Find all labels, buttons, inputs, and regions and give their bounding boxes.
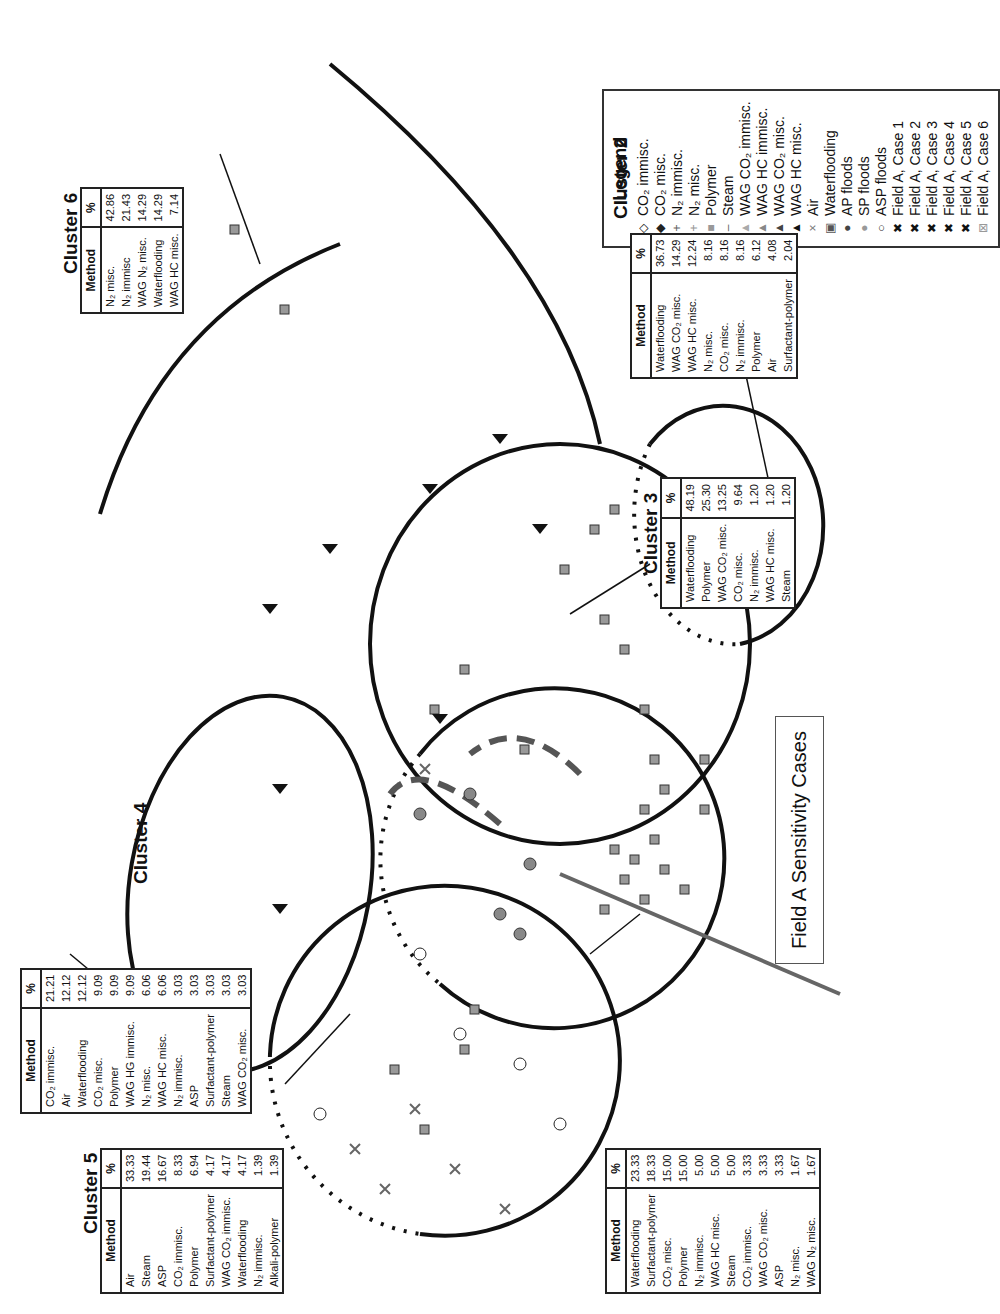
method-column-header: Method — [661, 518, 681, 608]
method-cell: ASP — [186, 1008, 202, 1113]
percent-cell: 36.73 — [651, 234, 668, 274]
method-cell: WAG HC misc. — [762, 518, 778, 608]
legend-item: ▲WAG HC misc. — [788, 101, 805, 236]
percent-cell: 4.17 — [234, 1149, 250, 1189]
table-row: Polymer6.94 — [186, 1149, 202, 1293]
table-row: CO₂ immisc.21.21 — [41, 969, 58, 1113]
legend-label: Waterflooding — [822, 130, 839, 216]
table-row: N₂ immisc.1.20 — [746, 478, 762, 608]
method-column-header: Method — [101, 1188, 121, 1293]
table-header-row: Method% — [81, 188, 101, 313]
method-cell: Surfactant-polymer — [202, 1008, 218, 1113]
method-cell: Alkali-polymer — [266, 1188, 283, 1293]
method-cell: CO₂ immisc. — [41, 1008, 58, 1113]
table-row: Steam3.03 — [218, 969, 234, 1113]
legend-items: ◇CO₂ immisc.◆CO₂ misc.+N₂ immisc.+N₂ mis… — [635, 101, 992, 236]
legend-item: +N₂ misc. — [686, 101, 703, 236]
legend-label: N₂ immisc. — [669, 149, 686, 216]
legend-item: ⊠Field A, Case 6 — [975, 101, 992, 236]
table-row: WAG N₂ misc.14.29 — [134, 188, 150, 313]
method-cell: Waterflooding — [150, 227, 166, 313]
percent-cell: 19.44 — [138, 1149, 154, 1189]
percent-cell: 7.14 — [166, 188, 183, 228]
field-a-callout: Field A Sensitivity Cases — [775, 716, 824, 964]
percent-cell: 8.16 — [716, 234, 732, 274]
cluster-1-table: Method%Waterflooding23.33Surfactant-poly… — [605, 1148, 821, 1294]
percent-cell: 33.33 — [121, 1149, 138, 1189]
legend-label: WAG CO₂ misc. — [771, 116, 788, 216]
legend-item: ✖Field A, Case 5 — [958, 101, 975, 236]
legend-label: Air — [805, 199, 822, 216]
percent-cell: 42.86 — [101, 188, 118, 228]
legend-label: Field A, Case 6 — [975, 121, 992, 216]
method-cell: Steam — [138, 1188, 154, 1293]
percent-cell: 13.25 — [714, 478, 730, 518]
table-row: Steam5.00 — [723, 1149, 739, 1293]
percent-cell: 1.20 — [746, 478, 762, 518]
method-cell: Waterflooding — [74, 1008, 90, 1113]
table-row: N₂ misc.1.67 — [787, 1149, 803, 1293]
method-cell: Polymer — [748, 273, 764, 378]
cluster-6-title: Cluster 6 — [60, 193, 82, 274]
percent-cell: 5.00 — [723, 1149, 739, 1189]
percent-cell: 1.20 — [762, 478, 778, 518]
method-cell: Steam — [778, 518, 795, 608]
table-row: CO₂ immisc.3.33 — [739, 1149, 755, 1293]
table-row: WAG N₂ misc.1.67 — [803, 1149, 820, 1293]
table-row: Waterflooding4.17 — [234, 1149, 250, 1293]
method-cell: Steam — [218, 1008, 234, 1113]
legend-label: WAG CO₂ immisc. — [737, 101, 754, 216]
method-cell: WAG CO₂ misc. — [714, 518, 730, 608]
table-row: WAG CO₂ misc.3.03 — [234, 969, 251, 1113]
legend-item: ◆CO₂ misc. — [652, 101, 669, 236]
percent-column-header: % — [81, 188, 101, 228]
table-row: N₂ immisc.3.03 — [170, 969, 186, 1113]
legend-label: N₂ misc. — [686, 164, 703, 216]
method-cell: Waterflooding — [681, 518, 698, 608]
legend-item: ○ASP floods — [873, 101, 890, 236]
percent-cell: 21.21 — [41, 969, 58, 1009]
table-header-row: Method% — [606, 1149, 626, 1293]
cluster-6-table: Method%N₂ misc.42.86N₂ immisc21.43WAG N₂… — [80, 187, 184, 314]
method-cell: Steam — [723, 1188, 739, 1293]
percent-cell: 6.94 — [186, 1149, 202, 1189]
table-row: N₂ misc.8.16 — [700, 234, 716, 378]
method-cell: ASP — [154, 1188, 170, 1293]
legend-item: ✖Field A, Case 4 — [941, 101, 958, 236]
cluster-3-title: Cluster 3 — [640, 493, 662, 574]
method-cell: Surfactant-polymer — [643, 1188, 659, 1293]
legend-label: CO₂ immisc. — [635, 138, 652, 216]
method-cell: WAG CO₂ immisc. — [218, 1188, 234, 1293]
legend-label: CO₂ misc. — [652, 153, 669, 216]
table-row: WAG HC misc.5.00 — [707, 1149, 723, 1293]
method-cell: WAG HG immisc. — [122, 1008, 138, 1113]
percent-cell: 12.12 — [58, 969, 74, 1009]
legend-label: WAG HC immisc. — [754, 108, 771, 216]
percent-cell: 3.33 — [755, 1149, 771, 1189]
percent-cell: 12.12 — [74, 969, 90, 1009]
percent-cell: 1.67 — [803, 1149, 820, 1189]
method-cell: Waterflooding — [234, 1188, 250, 1293]
method-cell: N₂ misc. — [700, 273, 716, 378]
table-row: WAG CO₂ misc.14.29 — [668, 234, 684, 378]
method-cell: CO₂ misc. — [716, 273, 732, 378]
method-cell: CO₂ misc. — [659, 1188, 675, 1293]
method-column-header: Method — [631, 273, 651, 378]
legend-label: Field A, Case 3 — [924, 121, 941, 216]
legend-label: Field A, Case 4 — [941, 121, 958, 216]
percent-cell: 1.20 — [778, 478, 795, 518]
legend-marker-icon: ● — [856, 220, 873, 236]
table-row: Air12.12 — [58, 969, 74, 1113]
table-row: N₂ immisc.1.39 — [250, 1149, 266, 1293]
cluster-2-table: Method%Waterflooding36.73WAG CO₂ misc.14… — [630, 233, 798, 379]
legend-label: AP floods — [839, 156, 856, 216]
percent-cell: 15.00 — [659, 1149, 675, 1189]
percent-cell: 1.39 — [266, 1149, 283, 1189]
cluster-5-title: Cluster 5 — [80, 1153, 102, 1234]
cluster-4-title: Cluster 4 — [130, 803, 152, 884]
legend-item: ▣Waterflooding — [822, 101, 839, 236]
percent-column-header: % — [101, 1149, 121, 1189]
legend-label: WAG HC misc. — [788, 122, 805, 216]
legend-item: ◇CO₂ immisc. — [635, 101, 652, 236]
